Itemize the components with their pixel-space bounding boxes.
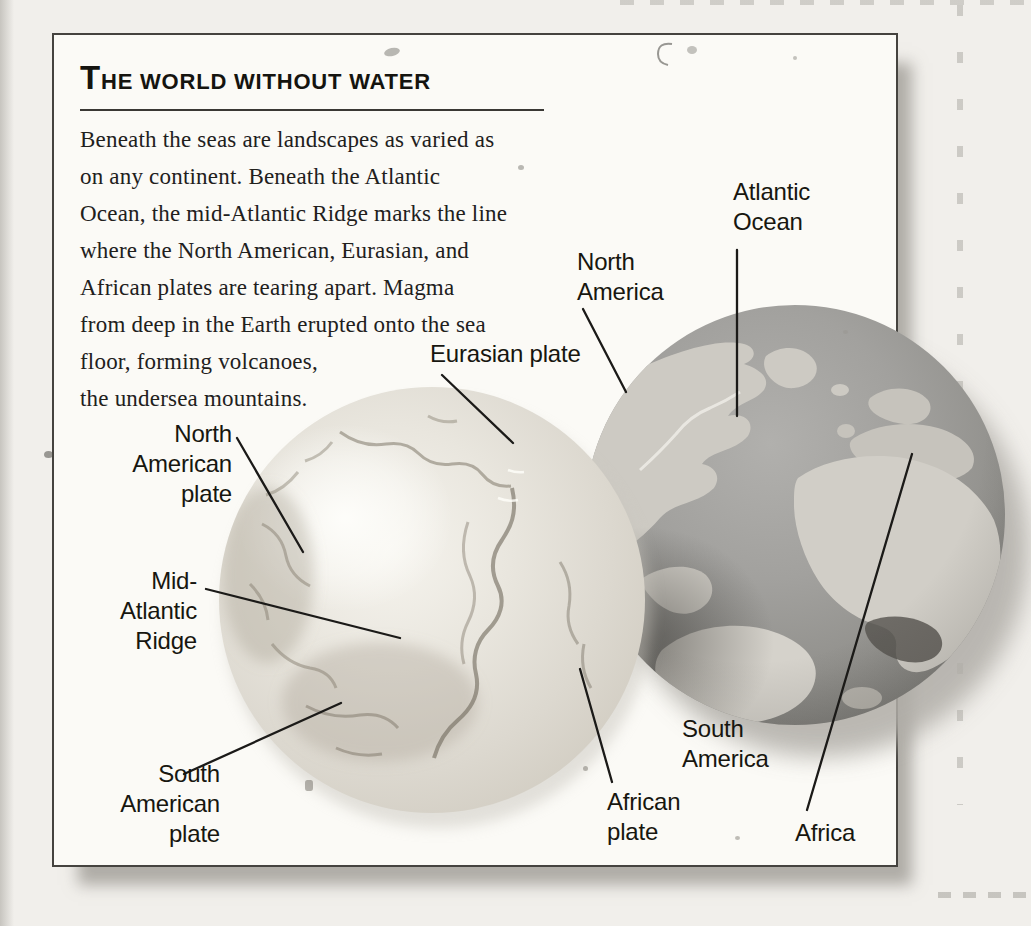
label-african-plate: African plate — [607, 787, 680, 847]
scan-speck — [793, 56, 797, 60]
scan-speck — [843, 330, 848, 334]
scan-smudge — [687, 46, 697, 54]
label-south-america: South America — [682, 714, 769, 774]
label-atlantic-ocean: Atlantic Ocean — [733, 177, 810, 237]
label-north-america: North America — [577, 247, 664, 307]
scan-speck — [305, 780, 313, 791]
label-north-american-plate: North American plate — [112, 419, 232, 509]
scan-speck — [44, 451, 53, 458]
leader-north-america — [583, 309, 626, 392]
seafloor-globe-group — [219, 387, 652, 828]
label-mid-atlantic-ridge: Mid- Atlantic Ridge — [87, 566, 197, 656]
label-south-american-plate: South American plate — [88, 759, 220, 849]
label-africa: Africa — [795, 818, 855, 848]
scan-pen-mark — [658, 44, 672, 65]
scan-speck — [583, 766, 588, 771]
ocean-globe-rim-shading — [585, 305, 1005, 725]
seafloor-globe-rim-shading — [219, 387, 645, 813]
scan-speck — [518, 165, 524, 170]
scan-speck — [735, 836, 740, 840]
label-eurasian-plate: Eurasian plate — [430, 339, 581, 369]
